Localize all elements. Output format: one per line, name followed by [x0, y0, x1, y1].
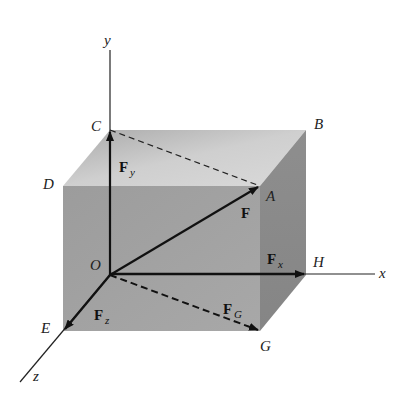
point-B-label: B [314, 116, 323, 132]
vector-F-label: F [241, 205, 250, 221]
point-H-label: H [312, 254, 325, 270]
force-components-diagram: y x z O C D B A H E G F F y F x F z F G [0, 0, 417, 396]
x-axis-label: x [378, 265, 386, 281]
point-O-label: O [90, 257, 101, 273]
point-G-label: G [260, 338, 271, 354]
svg-text:F: F [241, 205, 250, 221]
svg-text:G: G [234, 308, 242, 320]
point-D-label: D [42, 176, 54, 192]
y-axis-label: y [102, 32, 111, 48]
svg-text:F: F [119, 159, 128, 175]
svg-text:F: F [223, 301, 232, 317]
point-C-label: C [91, 118, 102, 134]
z-axis-label: z [32, 368, 39, 384]
svg-text:F: F [94, 307, 103, 323]
svg-text:F: F [267, 251, 276, 267]
svg-text:y: y [129, 166, 135, 178]
svg-text:x: x [277, 258, 283, 270]
point-A-label: A [265, 188, 276, 204]
point-E-label: E [40, 320, 50, 336]
svg-text:z: z [104, 314, 110, 326]
